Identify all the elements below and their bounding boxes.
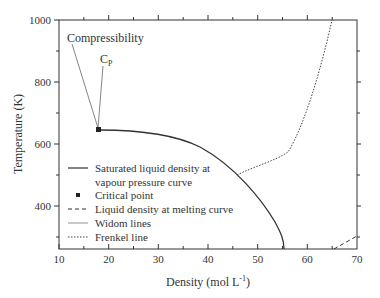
y-tick-label: 600 — [35, 138, 52, 150]
legend: Saturated liquid density at vapour press… — [68, 162, 233, 243]
widom-line-cp — [98, 66, 103, 128]
x-tick-label: 20 — [103, 253, 115, 265]
legend-square-marker-icon — [76, 193, 80, 197]
legend-label: Frenkel line — [95, 231, 148, 243]
phase-diagram-chart: 10 20 30 40 50 60 70 400 600 800 1000 De… — [0, 0, 380, 298]
x-tick-labels: 10 20 30 40 50 60 70 — [54, 253, 364, 265]
x-tick-label: 50 — [252, 253, 264, 265]
x-tick-label: 60 — [302, 253, 314, 265]
melting-curve — [334, 236, 357, 249]
x-tick-label: 30 — [153, 253, 165, 265]
y-axis-title: Temperature (K) — [11, 94, 25, 174]
legend-label: Saturated liquid density at — [95, 162, 210, 174]
x-tick-label: 70 — [352, 253, 364, 265]
x-tick-label: 40 — [203, 253, 215, 265]
legend-label: vapour pressure curve — [95, 176, 192, 188]
compressibility-annotation: Compressibility — [67, 31, 144, 45]
y-tick-labels: 400 600 800 1000 — [29, 14, 52, 212]
y-tick-label: 800 — [35, 76, 52, 88]
y-tick-label: 400 — [35, 200, 52, 212]
cp-annotation: CP — [100, 52, 113, 68]
legend-label: Critical point — [95, 189, 153, 201]
widom-line-compressibility — [72, 44, 98, 128]
legend-label: Widom lines — [95, 217, 151, 229]
x-tick-label: 10 — [54, 253, 66, 265]
y-tick-label: 1000 — [29, 14, 52, 26]
critical-point-marker — [96, 127, 101, 132]
frenkel-line — [237, 20, 332, 175]
x-axis-title: Density (mol L-1) — [166, 274, 250, 289]
legend-label: Liquid density at melting curve — [95, 203, 233, 215]
